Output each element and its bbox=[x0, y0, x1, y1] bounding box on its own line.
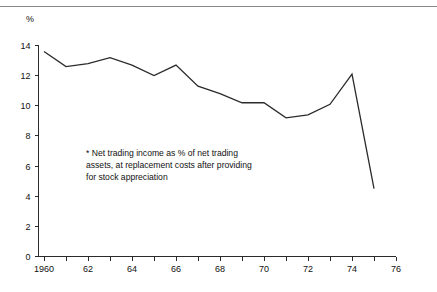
y-tick-label: 12 bbox=[20, 71, 30, 81]
x-tick-label: 62 bbox=[83, 264, 93, 274]
line-chart-plot: 02468101214 19606264666870727476 bbox=[0, 0, 437, 292]
x-tick-label: 74 bbox=[347, 264, 357, 274]
x-axis-tick-labels: 19606264666870727476 bbox=[34, 264, 401, 274]
y-tick-label: 10 bbox=[20, 101, 30, 111]
x-tick-label: 68 bbox=[215, 264, 225, 274]
x-tick-label: 1960 bbox=[34, 264, 54, 274]
y-axis-ticks bbox=[35, 46, 39, 257]
y-axis-tick-labels: 02468101214 bbox=[20, 41, 30, 262]
x-tick-label: 70 bbox=[259, 264, 269, 274]
x-tick-label: 72 bbox=[303, 264, 313, 274]
x-axis-ticks bbox=[44, 257, 396, 261]
y-tick-label: 0 bbox=[25, 252, 30, 262]
y-tick-label: 4 bbox=[25, 192, 30, 202]
chart-figure: % 02468101214 19606264666870727476 * Net… bbox=[0, 0, 437, 292]
footnote-annotation: * Net trading income as % of net trading… bbox=[86, 147, 264, 183]
x-tick-label: 66 bbox=[171, 264, 181, 274]
y-tick-label: 6 bbox=[25, 162, 30, 172]
y-tick-label: 8 bbox=[25, 131, 30, 141]
x-tick-label: 64 bbox=[127, 264, 137, 274]
y-tick-label: 2 bbox=[25, 222, 30, 232]
x-tick-label: 76 bbox=[391, 264, 401, 274]
y-tick-label: 14 bbox=[20, 41, 30, 51]
